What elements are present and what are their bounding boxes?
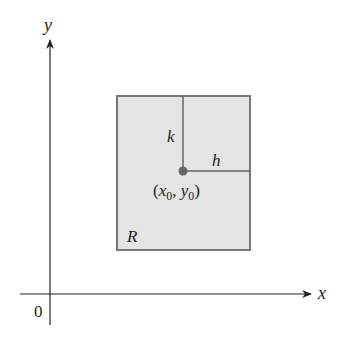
x-axis-label: x	[318, 284, 326, 302]
region-label: R	[127, 228, 137, 245]
diagram-graphics	[0, 0, 345, 341]
paren-close: )	[194, 181, 200, 200]
origin-label: 0	[34, 303, 43, 320]
center-point	[179, 167, 188, 176]
half-width-label: h	[212, 152, 221, 169]
diagram-canvas: y x 0 k h (x0, y0) R	[0, 0, 345, 341]
y-axis-label: y	[44, 16, 52, 34]
center-point-label: (x0, y0)	[153, 182, 200, 202]
half-height-label: k	[167, 128, 175, 145]
separator: ,	[172, 181, 181, 200]
